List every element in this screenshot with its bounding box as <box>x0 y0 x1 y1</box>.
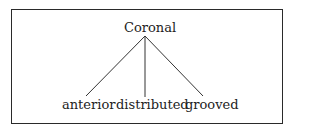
child-node-label-anterior: anterior <box>62 98 115 111</box>
root-node-label: Coronal <box>124 21 176 34</box>
edge-anterior <box>86 36 145 96</box>
edge-grooved <box>145 36 203 96</box>
child-node-label-distributed: distributed <box>116 98 189 111</box>
child-node-label-grooved: grooved <box>185 98 239 111</box>
